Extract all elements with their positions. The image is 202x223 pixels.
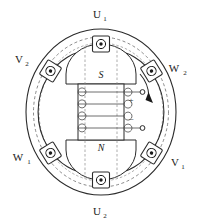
phase-label-v1-letter: V xyxy=(171,156,179,168)
phase-label-u1-subscript: 1 xyxy=(103,15,107,23)
phase-label-w2-subscript: 2 xyxy=(183,69,187,77)
phase-label-u1-letter: U xyxy=(93,8,101,20)
slot-u2 xyxy=(93,172,110,188)
negative-lead xyxy=(124,126,145,131)
phase-label-w2-letter: W xyxy=(169,62,180,74)
negative-terminal-dot xyxy=(140,126,145,131)
phase-label-w2: W 2 xyxy=(169,62,187,77)
phase-label-u2: U 2 xyxy=(93,205,107,220)
slot-w1 xyxy=(39,142,62,165)
slot-v2 xyxy=(39,60,62,83)
phase-label-w1-letter: W xyxy=(13,151,24,163)
positive-sign-label: + xyxy=(128,95,133,105)
bore-arc-right xyxy=(154,77,164,148)
positive-terminal-dot xyxy=(140,90,145,95)
diagram-canvas: S N + − U 1 V 2 W 2 W 1 V 1 U 2 xyxy=(0,0,202,223)
pole-label-north: N xyxy=(97,142,106,153)
phase-label-u2-letter: U xyxy=(93,205,101,217)
phase-label-w1: W 1 xyxy=(13,151,31,166)
phase-label-u1: U 1 xyxy=(93,8,107,23)
pole-label-south: S xyxy=(99,69,104,80)
phase-label-v1-subscript: 1 xyxy=(181,163,185,171)
machine-cross-section-figure: S N + − U 1 V 2 W 2 W 1 V 1 U 2 xyxy=(0,0,202,223)
phase-label-v2-letter: V xyxy=(15,53,23,65)
phase-label-w1-subscript: 1 xyxy=(27,158,31,166)
phase-label-u2-subscript: 2 xyxy=(103,212,107,220)
positive-lead xyxy=(124,90,145,95)
slot-v1 xyxy=(140,142,163,165)
phase-label-v1: V 1 xyxy=(171,156,185,171)
phase-label-v2: V 2 xyxy=(15,53,29,68)
negative-sign-label: − xyxy=(128,114,133,124)
phase-label-v2-subscript: 2 xyxy=(25,60,29,68)
slot-u1 xyxy=(93,36,110,52)
bore-arc-left xyxy=(38,77,48,148)
